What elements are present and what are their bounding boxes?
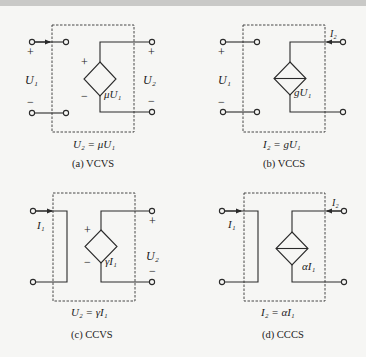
panel-caption: (d) CCCS: [262, 329, 304, 341]
controlled-sources-diagram: + − U₁ + − μU₁ + − U₂ U₂ = μU₁ (a) VCVS …: [0, 0, 366, 357]
input-current-label: I₁: [227, 218, 236, 230]
output-voltage-label: U₂: [143, 73, 156, 87]
output-terminal-top[interactable]: [149, 39, 154, 44]
input-terminal-inner-bottom: [63, 110, 68, 115]
input-terminal-inner-bottom: [254, 109, 259, 114]
input-terminal-inner-top: [63, 39, 68, 44]
input-terminal-bottom[interactable]: [30, 279, 35, 284]
output-terminal-bottom[interactable]: [149, 279, 154, 284]
input-minus: −: [27, 95, 34, 109]
output-current-label: I₂: [329, 28, 337, 39]
output-current-label: I₂: [331, 197, 339, 208]
source-gain-label: μU₁: [103, 88, 121, 100]
output-minus: −: [149, 264, 156, 278]
source-plus: +: [81, 55, 88, 69]
output-terminal-top[interactable]: [149, 208, 154, 213]
input-terminal-inner-top: [254, 39, 259, 44]
output-plus: +: [148, 45, 155, 59]
input-current-label: I₁: [36, 219, 45, 231]
output-plus: +: [149, 214, 156, 228]
output-terminal-bottom[interactable]: [149, 109, 154, 114]
panel-ccvs: I₁ + − γI₁ + − U₂ U₂ = γI₁ (c) CCVS: [30, 193, 158, 341]
source-gain-label: γI₁: [105, 255, 117, 267]
panel-caption: (b) VCCS: [263, 158, 305, 170]
output-voltage-label: U₂: [146, 249, 159, 263]
panel-cccs: I₁ αI₁ I₂ I₂ = αI₁ (d) CCCS: [219, 193, 346, 341]
relation-equation: U₂ = μU₁: [73, 138, 115, 150]
source-gain-label: αI₁: [302, 260, 315, 272]
relation-equation: I₂ = gU₁: [262, 138, 301, 150]
panel-caption: (a) VCVS: [72, 158, 114, 170]
input-terminal-top[interactable]: [30, 208, 35, 213]
input-terminal-top[interactable]: [219, 208, 224, 213]
source-gain-label: gU₁: [294, 86, 311, 98]
input-plus: +: [218, 45, 225, 59]
output-terminal-bottom[interactable]: [340, 109, 345, 114]
input-voltage-label: U₁: [25, 73, 38, 87]
relation-equation: U₂ = γI₁: [71, 306, 108, 318]
output-top-wire: [290, 42, 342, 62]
input-terminal-bottom[interactable]: [220, 109, 225, 114]
input-terminal-bottom[interactable]: [219, 279, 224, 284]
output-bottom-wire: [292, 265, 343, 282]
panel-vccs: + − U₁ gU₁ I₂ I₂ = gU₁ (b) VCCS: [218, 25, 346, 170]
relation-equation: I₂ = αI₁: [260, 306, 295, 318]
panel-vcvs: + − U₁ + − μU₁ + − U₂ U₂ = μU₁ (a) VCVS: [25, 25, 156, 170]
input-plus: +: [27, 45, 34, 59]
input-terminal-top[interactable]: [29, 39, 34, 44]
output-minus: −: [148, 94, 155, 108]
input-voltage-label: U₁: [218, 73, 231, 87]
source-plus: +: [84, 223, 91, 237]
input-terminal-top[interactable]: [220, 39, 225, 44]
output-terminal-bottom[interactable]: [341, 279, 346, 284]
input-terminal-bottom[interactable]: [29, 110, 34, 115]
source-minus: −: [84, 255, 91, 269]
panel-caption: (c) CCVS: [71, 329, 113, 341]
output-top-wire: [292, 211, 343, 232]
source-minus: −: [81, 89, 88, 103]
output-terminal-top[interactable]: [340, 39, 345, 44]
input-minus: −: [218, 95, 225, 109]
output-top-wire: [101, 211, 151, 230]
output-top-wire: [100, 42, 151, 62]
output-terminal-top[interactable]: [341, 208, 346, 213]
